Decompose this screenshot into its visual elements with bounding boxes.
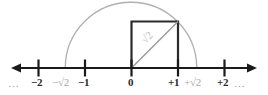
tick-label-minus-1: −1	[78, 77, 89, 88]
square-diagonal	[132, 22, 179, 69]
tick-label-plus-1: +1	[168, 77, 179, 88]
axis-right-ellipsis: …	[234, 78, 245, 89]
tick-label-plus-sqrt2: +√2	[184, 77, 201, 88]
number-line-figure: √2 … −2 −√2 −1 0 +1 +√2 +2 …	[0, 0, 268, 95]
axis-left-ellipsis: …	[8, 78, 19, 89]
tick-label-plus-2: +2	[217, 77, 228, 88]
tick-label-zero: 0	[128, 77, 133, 88]
axis-left-arrow-icon	[11, 64, 21, 73]
tick-label-minus-sqrt2: −√2	[52, 77, 69, 88]
axis-right-arrow-icon	[247, 64, 257, 73]
tick-label-minus-2: −2	[31, 77, 42, 88]
